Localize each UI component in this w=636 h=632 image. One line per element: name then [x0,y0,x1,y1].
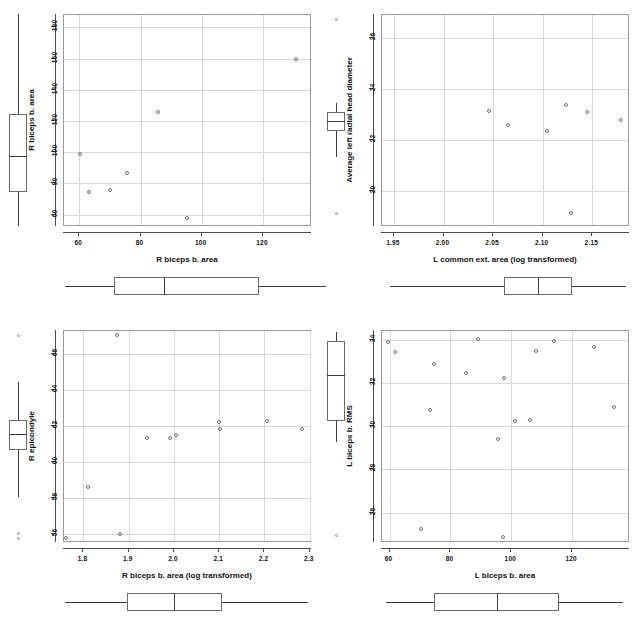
y-axis-tick-label: 26 [369,29,376,43]
data-point [487,109,491,113]
y-axis-tick-label: 140 [51,81,58,95]
x-axis-tick [492,232,493,236]
y-axis-tick-label: 180 [51,19,58,33]
y-axis-tick-label: 30 [369,418,376,432]
x-axis-tick-label: 120 [256,239,267,246]
x-axis-tick [140,232,141,236]
gridline-horizontal [382,340,628,341]
boxplot-vertical-outlier [17,532,20,535]
data-point [265,419,269,423]
panel-top-left: 6080100120R biceps b. area60801001201401… [0,0,318,316]
gridline-vertical [572,331,573,541]
x-axis-tick [128,548,129,552]
x-axis-tick-label: 120 [565,555,576,562]
gridline-horizontal [382,469,628,470]
gridline-vertical [141,15,142,225]
y-axis-title: R biceps b. area [27,89,36,150]
gridline-horizontal [382,89,628,90]
plot-area [63,14,311,226]
gridline-horizontal [382,191,628,192]
y-axis-tick-label: 34 [369,331,376,345]
data-point [300,427,304,431]
data-point [118,532,122,536]
x-axis-tick-label: 2.2 [259,555,269,562]
gridline-horizontal [382,383,628,384]
x-axis-tick [201,232,202,236]
gridline-horizontal [64,90,310,91]
data-point [534,349,538,353]
boxplot-vertical-median [327,375,345,376]
y-axis-tick-label: 60 [51,206,58,220]
gridline-horizontal [64,183,310,184]
gridline-vertical [450,331,451,541]
x-axis-tick [542,232,543,236]
data-point [217,420,221,424]
gridline-vertical [444,15,445,225]
data-point [419,527,423,531]
gridline-horizontal [64,462,310,463]
gridline-vertical [264,331,265,541]
x-axis-tick-label: 2.3 [304,555,314,562]
boxplot-vertical-outlier [17,334,20,337]
gridline-vertical [202,15,203,225]
data-point [386,340,390,344]
x-axis-line [63,232,311,233]
data-point [528,418,532,422]
gridline-vertical [129,331,130,541]
plot-area [381,14,629,226]
gridline-horizontal [64,354,310,355]
data-point [502,376,506,380]
x-axis-tick [309,548,310,552]
gridline-horizontal [382,513,628,514]
data-point [393,350,397,354]
scatterplot-matrix-figure: 6080100120R biceps b. area60801001201401… [0,0,636,632]
data-point [294,57,298,61]
data-point [87,190,91,194]
x-axis-tick [449,548,450,552]
y-axis-tick-label: 20 [369,183,376,197]
gridline-vertical [390,331,391,541]
boxplot-vertical-median [327,121,345,122]
x-axis-tick [82,548,83,552]
x-axis-tick-label: 80 [136,239,144,246]
gridline-horizontal [64,534,310,535]
data-point [174,433,178,437]
boxplot-horizontal-median [164,277,165,295]
x-axis-tick [443,232,444,236]
x-axis-tick [591,232,592,236]
x-axis-tick-label: 2.00 [436,239,449,246]
y-axis-title: R epicondyle [27,411,36,461]
x-axis-tick-label: 2.0 [168,555,178,562]
boxplot-vertical-outlier [335,18,338,21]
gridline-vertical [263,15,264,225]
y-axis-tick-label: 58 [51,490,58,504]
x-axis-tick-label: 2.1 [213,555,223,562]
boxplot-horizontal-box [114,277,259,295]
gridline-vertical [592,15,593,225]
gridline-vertical [543,15,544,225]
data-point [564,103,568,107]
y-axis-tick-label: 32 [369,374,376,388]
data-point [428,408,432,412]
x-axis-tick-label: 60 [385,555,393,562]
boxplot-vertical-outlier [335,212,338,215]
x-axis-title: R biceps b. area [156,255,217,264]
x-axis-tick [393,232,394,236]
y-axis-tick-label: 26 [369,504,376,518]
gridline-horizontal [64,121,310,122]
gridline-vertical [79,15,80,225]
x-axis-tick-label: 2.05 [485,239,498,246]
y-axis-title: L biceps b. RMS [345,405,354,467]
y-axis-tick-label: 56 [51,526,58,540]
boxplot-vertical-outlier [17,537,20,540]
gridline-horizontal [382,38,628,39]
boxplot-vertical-median [9,156,27,157]
x-axis-tick [173,548,174,552]
data-point [619,118,623,122]
gridline-horizontal [64,390,310,391]
gridline-horizontal [382,140,628,141]
y-axis-tick-label: 62 [51,418,58,432]
y-axis-tick-label: 60 [51,454,58,468]
gridline-vertical [511,331,512,541]
gridline-horizontal [64,498,310,499]
